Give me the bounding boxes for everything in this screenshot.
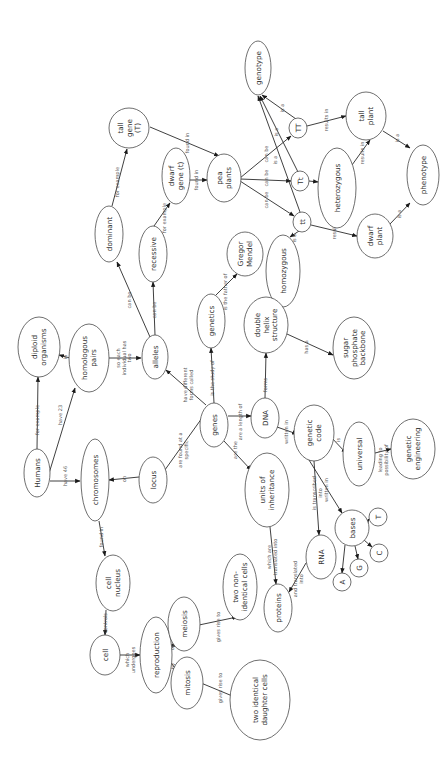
node-homologous-pairs[interactable]: homologouspairs: [69, 324, 109, 392]
edge-dwarf_gene-to-pea_plants: found in: [190, 170, 207, 190]
node-heterozygous[interactable]: heterozygous: [318, 148, 356, 228]
edge-label: is: [335, 438, 341, 442]
edge-label: forms: [262, 377, 268, 392]
edge-alleles-to-recessive: can be: [151, 282, 157, 335]
edge-genes-to-locus: are found at aspecific: [162, 418, 202, 474]
edge-Tt-to-heterozygous: [309, 181, 318, 182]
node-mitosis[interactable]: mitosis: [171, 657, 203, 709]
node-tall-plant[interactable]: tallplant: [346, 92, 386, 140]
node-rna[interactable]: RNA: [306, 535, 336, 579]
node-dominant[interactable]: dominant: [95, 206, 123, 262]
node-alleles[interactable]: alleles: [142, 335, 168, 379]
node-layer: genotypetallgene(T)peaplantsdwarfgene (t…: [18, 41, 439, 740]
node-genetic-engineering[interactable]: geneticengineering: [391, 419, 435, 479]
edge-label: on: [121, 476, 127, 482]
node-units-of-inheritance[interactable]: units ofinheritance: [245, 453, 289, 527]
edge-label: for example: [161, 203, 168, 233]
node-base-C[interactable]: C: [370, 544, 388, 562]
concept-map: for examplefound infound infor exampleca…: [0, 0, 448, 779]
node-two-non-identical[interactable]: two non-identical cells: [223, 554, 257, 620]
arrow-line: [355, 546, 358, 559]
node-reproduction[interactable]: reproduction: [140, 617, 172, 693]
edge-genes-to-genetics: is the study of: [209, 348, 216, 403]
node-genetic-code[interactable]: geneticcode: [294, 405, 334, 461]
node-sugar-phosphate[interactable]: sugarphosphatebackbone: [333, 317, 375, 379]
edge-humans-to-chromosomes: have 46: [50, 466, 80, 486]
node-gregor-mendel[interactable]: GregorMendel: [227, 232, 263, 276]
node-dna[interactable]: DNA: [251, 398, 279, 438]
edge-label: have differentforms called: [182, 367, 194, 402]
node-label: alleles: [151, 345, 160, 368]
edge-homologous_pairs-to-diploid_organisms: in: [59, 355, 70, 360]
node-dwarf-plant[interactable]: dwarfplant: [357, 214, 393, 258]
node-label: genetics: [207, 306, 216, 337]
edge-homologous_pairs-to-alleles: so eachindividual hastwo: [109, 340, 141, 375]
node-tall-gene[interactable]: tallgene(T): [109, 108, 149, 148]
edge-label: results in: [323, 109, 329, 132]
node-genotype[interactable]: genotype: [245, 41, 271, 95]
node-base-G[interactable]: G: [350, 559, 368, 577]
node-humans[interactable]: Humans: [24, 449, 50, 497]
edge-genes-to-units_of_inheritance: are the: [224, 441, 251, 470]
node-label: T: [374, 514, 383, 520]
node-dwarf-gene[interactable]: dwarfgene (t): [162, 148, 190, 204]
edge-heterozygous-to-tall_plant: results in: [352, 140, 370, 165]
edge-units_of_inheritance-to-proteins: which aretranslated into: [266, 527, 278, 584]
node-recessive[interactable]: recessive: [139, 226, 167, 282]
edge-label: controls: [102, 613, 108, 633]
node-base-A[interactable]: A: [333, 573, 351, 591]
node-cell-nucleus[interactable]: cellnucleus: [96, 555, 130, 611]
node-locus[interactable]: locus: [139, 457, 167, 503]
node-pea-plants[interactable]: peaplants: [207, 154, 241, 202]
edge-label: can be: [263, 146, 269, 163]
edge-label: are the: [232, 441, 238, 459]
edge-label: leading topossibility of: [377, 444, 390, 476]
node-diploid-organisms[interactable]: diploidorganisms: [18, 317, 60, 377]
edge-tall_gene-to-pea_plants: found in: [150, 127, 219, 156]
node-double-helix[interactable]: doublehelixstructure: [244, 297, 288, 353]
edge-label: is a: [396, 210, 402, 219]
node-label: RNA: [317, 549, 326, 564]
node-homozygous[interactable]: homozygous: [266, 235, 300, 307]
node-label: tt: [298, 219, 307, 225]
node-label: chromosomes: [91, 455, 100, 506]
node-tt[interactable]: tt: [293, 212, 311, 232]
edge-bases-to-base_C: [364, 540, 372, 547]
node-genetics[interactable]: genetics: [197, 294, 225, 348]
node-label: meiosis: [180, 610, 189, 638]
node-proteins[interactable]: proteins: [264, 584, 292, 632]
node-label: bases: [348, 517, 357, 538]
edge-label: is transcribedinto: [311, 476, 323, 510]
edge-label: is the study of: [209, 360, 216, 396]
edge-label: have 23: [57, 405, 63, 425]
node-phenotype[interactable]: phenotype: [407, 145, 439, 205]
node-Tt[interactable]: Tt: [291, 171, 309, 191]
edge-label: for example: [114, 167, 121, 197]
node-label: genes: [210, 414, 219, 436]
edge-humans-to-diploid_organisms: for example: [34, 377, 41, 449]
arrow-line: [309, 181, 318, 182]
edge-label: found in: [98, 527, 104, 547]
node-base-T[interactable]: T: [369, 508, 387, 526]
node-genes[interactable]: genes: [200, 403, 228, 447]
edge-label: which aretranslated into: [266, 539, 278, 576]
node-meiosis[interactable]: meiosis: [168, 597, 200, 651]
node-chromosomes[interactable]: chromosomes: [81, 439, 109, 521]
node-label: dominant: [105, 217, 114, 251]
edge-TT-to-tall_plant: results in: [307, 109, 346, 132]
edge-label: has a: [303, 340, 309, 354]
node-label: homozygous: [279, 248, 288, 294]
node-cell[interactable]: cell: [90, 635, 120, 675]
edge-label: whichundergoes: [124, 646, 137, 673]
edge-cell_nucleus-to-cell: controls: [102, 610, 108, 635]
edge-label: can be: [126, 292, 132, 309]
node-universal[interactable]: universal: [343, 422, 375, 486]
edge-chromosomes-to-cell_nucleus: found in: [98, 521, 105, 556]
node-TT[interactable]: TT: [289, 118, 307, 138]
node-bases[interactable]: bases: [335, 510, 369, 546]
node-two-identical[interactable]: two identicaldaughter cells: [230, 660, 290, 740]
edge-label: can be: [151, 302, 157, 319]
edge-label: in: [62, 355, 68, 360]
edge-label: for example: [34, 405, 41, 435]
edge-dna-to-double_helix: forms: [262, 353, 268, 398]
